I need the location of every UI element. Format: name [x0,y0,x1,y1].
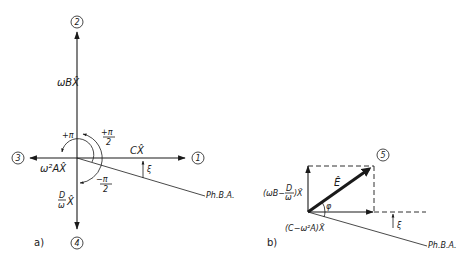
reference-line-b [308,212,427,246]
svg-text:2: 2 [106,138,111,147]
label-angle-xi-b: ξ [396,221,402,230]
label-reference-line: Ph.B.A. [206,191,235,200]
marker-3-text: 3 [15,154,20,163]
arc-phi-lower [324,212,325,217]
panel-label-a: a) [34,237,44,248]
label-angle-plus-pi-half: +π 2 [101,128,115,147]
phasor-diagrams: 2 4 3 1 ωBX̂ CX̂ ω²AX̂ D ω X̂ [0,0,466,265]
svg-text:+π: +π [101,128,113,137]
svg-text:D: D [286,184,292,193]
marker-3: 3 [12,152,24,164]
label-angle-xi: ξ [146,165,152,174]
label-reference-line-b: Ph.B.A. [428,241,457,250]
svg-text:−π: −π [96,175,108,184]
svg-text:D: D [59,191,65,200]
label-angle-minus-pi-half: −π 2 [96,175,112,194]
marker-4-text: 4 [74,239,79,248]
label-angle-plus-pi: +π [62,131,74,140]
diagram-a: 2 4 3 1 ωBX̂ CX̂ ω²AX̂ D ω X̂ [12,16,235,249]
marker-2: 2 [71,16,83,28]
marker-2-text: 2 [74,18,79,27]
marker-5-text: 5 [380,151,385,160]
label-left-vector: ω²AX̂ [40,162,67,174]
label-resultant: Ê [334,176,341,188]
svg-text:)X̂: )X̂ [293,188,303,198]
marker-4: 4 [71,237,83,249]
label-horizontal-component: (C−ω²A)X̂ [285,223,325,233]
resultant-vector [308,169,369,212]
marker-1-text: 1 [195,154,200,163]
svg-text:2: 2 [103,185,108,194]
label-angle-phi: φ [326,202,332,211]
marker-1: 1 [192,152,204,164]
label-vertical-component: (ωB− D ω )X̂ [263,184,303,202]
svg-text:ω: ω [285,193,292,202]
label-up-vector: ωBX̂ [57,76,80,88]
panel-label-b: b) [267,237,277,248]
label-down-vector: D ω X̂ [58,191,75,210]
svg-text:X̂: X̂ [66,195,75,207]
svg-text:(ωB−: (ωB− [263,189,285,198]
diagram-b: 5 (ωB− D ω )X̂ (C−ω²A)X̂ Ê φ ξ Ph.B.A. b… [263,149,457,250]
svg-text:ω: ω [58,201,65,210]
marker-5: 5 [377,149,389,161]
label-right-vector: CX̂ [130,144,145,156]
